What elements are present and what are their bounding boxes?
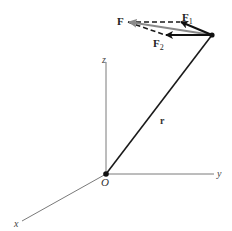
y-axis-label: y xyxy=(216,168,222,179)
origin-label: O xyxy=(101,176,109,188)
force-diagram: z y x O r F F1 F2 xyxy=(0,0,232,231)
application-point xyxy=(209,32,214,37)
x-axis-label: x xyxy=(13,218,19,229)
position-vector-r xyxy=(106,35,212,174)
position-vector-label: r xyxy=(160,115,165,126)
force-F2-label: F2 xyxy=(153,37,164,52)
x-axis xyxy=(22,174,106,221)
resultant-force-label: F xyxy=(117,15,124,27)
resultant-force-F xyxy=(129,22,212,35)
z-axis-label: z xyxy=(101,54,106,65)
